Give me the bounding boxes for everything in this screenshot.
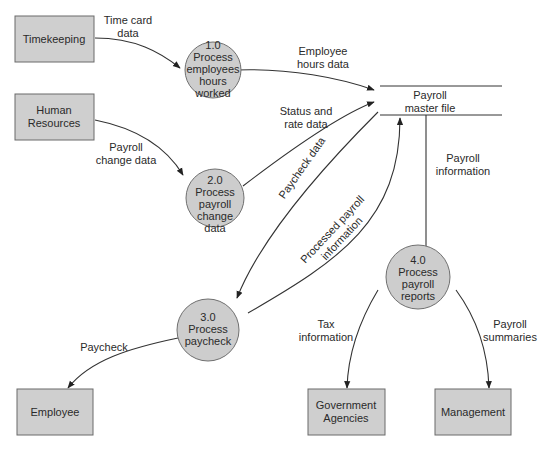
label-time-card-data: Time card data [104,14,153,39]
svg-text:Agencies: Agencies [323,412,369,424]
entity-management: Management [435,389,511,435]
svg-text:Time card: Time card [104,14,153,26]
svg-text:Timekeeping: Timekeeping [23,33,86,45]
label-processed-payroll-information: Processed payroll information [298,193,376,274]
flow-processed-payroll-information [248,118,400,313]
svg-text:1.0: 1.0 [205,39,220,51]
svg-text:Payroll: Payroll [493,318,527,330]
svg-text:4.0: 4.0 [410,254,425,266]
label-paycheck: Paycheck [80,341,128,353]
svg-text:Employee: Employee [31,406,80,418]
svg-text:Resources: Resources [28,117,81,129]
svg-text:Process: Process [195,186,235,198]
label-status-rate-data: Status and rate data [280,105,333,130]
label-payroll-summaries: Payroll summaries [483,318,537,343]
svg-text:reports: reports [401,290,436,302]
entity-human-resources: Human Resources [15,94,94,140]
data-flow-diagram: Time card data Employee hours data Statu… [0,0,546,450]
process-2-0: 2.0 Process payroll change data [186,169,244,234]
svg-text:Management: Management [441,406,505,418]
label-employee-hours-data: Employee hours data [297,45,350,70]
label-payroll-change-data: Payroll change data [96,141,157,166]
svg-text:Payroll: Payroll [109,141,143,153]
svg-text:hours data: hours data [297,58,350,70]
svg-text:Process: Process [188,323,228,335]
svg-text:hours: hours [199,75,227,87]
svg-text:paycheck: paycheck [185,335,232,347]
process-3-0: 3.0 Process paycheck [177,299,239,361]
svg-text:payroll: payroll [199,198,231,210]
svg-text:Process: Process [398,266,438,278]
svg-text:Status and: Status and [280,105,333,117]
svg-text:information: information [299,331,353,343]
label-tax-information: Tax information [299,318,353,343]
svg-text:rate data: rate data [284,118,328,130]
svg-text:Human: Human [36,104,71,116]
svg-text:worked: worked [194,87,230,99]
process-4-0: 4.0 Process payroll reports [386,245,450,309]
label-payroll-information: Payroll information [436,152,490,177]
process-1-0: 1.0 Process employees hours worked [185,39,241,99]
svg-text:Employee: Employee [299,45,348,57]
svg-text:employees: employees [186,63,240,75]
svg-text:data: data [117,27,139,39]
entity-timekeeping: Timekeeping [15,16,94,62]
data-store-payroll-master-file: Payroll master file [380,86,502,115]
entity-government-agencies: Government Agencies [308,389,385,435]
svg-text:Government: Government [316,399,377,411]
flow-employee-hours-data [236,70,374,90]
svg-text:Payroll: Payroll [446,152,480,164]
svg-text:data: data [204,222,226,234]
svg-text:Paycheck: Paycheck [80,341,128,353]
svg-text:information: information [436,165,490,177]
flow-time-card-data [95,38,180,68]
svg-text:Tax: Tax [317,318,335,330]
svg-text:change: change [197,210,233,222]
svg-text:Paycheck data: Paycheck data [276,134,328,201]
svg-text:summaries: summaries [483,331,537,343]
entity-employee: Employee [17,389,93,435]
svg-text:change data: change data [96,154,157,166]
svg-text:payroll: payroll [402,278,434,290]
svg-text:Payroll: Payroll [413,89,447,101]
svg-text:3.0: 3.0 [200,311,215,323]
svg-text:2.0: 2.0 [207,174,222,186]
label-paycheck-data: Paycheck data [276,134,328,201]
svg-text:master file: master file [405,102,456,114]
svg-text:Process: Process [193,51,233,63]
